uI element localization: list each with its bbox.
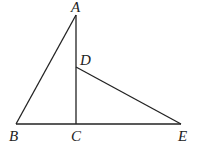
point-label-e: E: [178, 129, 187, 144]
point-label-c: C: [71, 129, 81, 144]
point-label-b: B: [9, 129, 18, 144]
segment-de: [76, 67, 181, 124]
point-label-a: A: [71, 0, 80, 15]
triangle-diagram: [0, 0, 203, 151]
segment-ab: [16, 15, 76, 124]
point-label-d: D: [80, 53, 91, 68]
